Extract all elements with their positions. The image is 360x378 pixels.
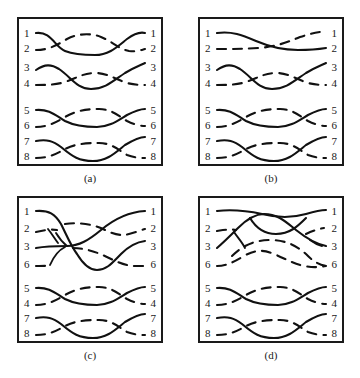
panel-a: 1 2 3 4 5 6 7 8 1 2 3 4 5 6 7 8 xyxy=(17,17,163,166)
panel-c-caption: (c) xyxy=(17,349,163,361)
panel-b: 1 2 3 4 5 6 7 8 1 2 3 4 5 6 7 8 xyxy=(198,17,344,166)
panel-c: 1 2 3 6 5 4 7 8 1 2 3 6 5 4 7 8 xyxy=(17,196,163,343)
panel-a-caption: (a) xyxy=(17,172,163,184)
panel-c-braid xyxy=(17,196,163,343)
panel-b-braid xyxy=(198,17,344,166)
panel-d-caption: (d) xyxy=(198,349,344,361)
panel-d: 1 2 3 6 5 4 7 8 1 2 3 6 5 4 7 8 xyxy=(198,196,344,343)
panel-a-braid xyxy=(17,17,163,166)
panel-d-braid xyxy=(198,196,344,343)
panel-b-caption: (b) xyxy=(198,172,344,184)
